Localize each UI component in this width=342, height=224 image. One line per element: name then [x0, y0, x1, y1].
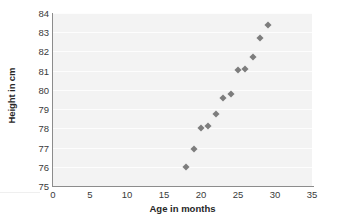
decorative-rule: [0, 192, 40, 193]
data-point: [227, 90, 234, 97]
y-tick-label: 80: [38, 84, 49, 95]
x-axis-title: Age in months: [53, 203, 312, 214]
data-points-layer: [53, 13, 312, 186]
y-tick-label: 75: [38, 181, 49, 192]
y-tick-label: 84: [38, 8, 49, 19]
x-tick-label: 30: [270, 189, 281, 200]
x-tick-label: 0: [50, 189, 55, 200]
x-tick-label: 10: [122, 189, 133, 200]
x-tick-label: 35: [307, 189, 318, 200]
x-axis-line: [52, 186, 314, 187]
y-tick-label: 81: [38, 65, 49, 76]
data-point: [205, 123, 212, 130]
data-point: [264, 21, 271, 28]
y-axis-title: Height in cm: [0, 0, 24, 190]
data-point: [220, 94, 227, 101]
x-tick-label: 15: [159, 189, 170, 200]
data-point: [257, 34, 264, 41]
data-point: [242, 65, 249, 72]
y-tick-label: 76: [38, 161, 49, 172]
y-tick-label: 77: [38, 142, 49, 153]
y-axis-line: [52, 13, 53, 187]
y-tick-label: 83: [38, 27, 49, 38]
y-axis-tick-labels: 75767778798081828384: [24, 8, 51, 188]
scatter-chart: Height in cm 75767778798081828384 051015…: [0, 0, 342, 224]
data-point: [183, 163, 190, 170]
x-tick-label: 20: [196, 189, 207, 200]
y-tick-label: 82: [38, 46, 49, 57]
data-point: [234, 66, 241, 73]
data-point: [190, 146, 197, 153]
data-point: [212, 110, 219, 117]
x-axis-tick-labels: 05101520253035: [53, 189, 312, 203]
y-tick-label: 78: [38, 123, 49, 134]
x-tick-label: 5: [87, 189, 92, 200]
data-point: [249, 54, 256, 61]
y-tick-label: 79: [38, 104, 49, 115]
x-tick-label: 25: [233, 189, 244, 200]
plot-area: [53, 13, 312, 186]
y-axis-title-text: Height in cm: [7, 67, 18, 123]
